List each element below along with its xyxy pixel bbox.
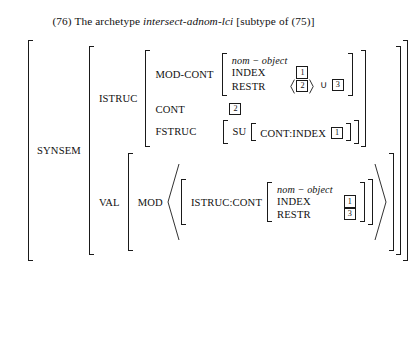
angle-close-icon: [309, 79, 314, 94]
attr-su: SU: [232, 126, 251, 137]
attr-mod-cont: MOD-CONT: [155, 69, 221, 80]
synsem-bracket: ISTRUC MOD-CONT: [89, 46, 401, 255]
attr-val: VAL: [99, 197, 128, 208]
caption-text-before: The archetype: [74, 15, 140, 27]
row-istruc: ISTRUC MOD-CONT: [99, 50, 366, 147]
row-cont: CONT 2: [155, 103, 241, 116]
val-index: 1: [274, 66, 343, 79]
attr-istruc: ISTRUC: [99, 93, 146, 104]
mod-item-bracket-body: ISTRUC:CONT nom − object: [186, 179, 368, 225]
tag-3: 3: [332, 79, 344, 92]
val-bracket-body: MOD: [133, 153, 389, 251]
row-index: INDEX 1: [232, 66, 344, 79]
attr-synsem: SYNSEM: [37, 145, 89, 156]
val-restr: 2: [274, 79, 343, 94]
istruc-bracket: MOD-CONT nom − object: [145, 50, 366, 147]
avm-diagram: SYNSEM ISTRUC: [28, 40, 408, 265]
attr-mod: MOD: [138, 197, 167, 208]
mod-item-bracket-right: [368, 179, 373, 225]
fstruc-bracket-right: [354, 120, 359, 145]
istruc-bracket-right: [361, 50, 366, 147]
row-restr: RESTR: [232, 79, 344, 94]
mod-cont-inner-bracket: nom − object INDEX: [267, 182, 365, 222]
caption-archetype-name: intersect-adnom-lci: [143, 15, 233, 27]
union-operator: ∪: [317, 79, 329, 90]
attr-cont-index: CONT:INDEX: [260, 128, 326, 139]
restr-list: 2: [290, 79, 314, 94]
row-mod-cont: MOD-CONT nom − object: [155, 53, 352, 96]
val-bracket: MOD: [128, 153, 394, 251]
row-val: VAL MOD: [99, 153, 394, 251]
mod-cont-bracket-right: [348, 53, 353, 96]
val-restr-val: 3: [320, 208, 356, 221]
tag-3-val: 3: [344, 208, 356, 221]
attr-restr-val: RESTR: [277, 208, 320, 221]
mod-list-angle-open-icon: [167, 163, 180, 241]
type-label-val-mod: nom − object: [277, 184, 356, 195]
attr-fstruc: FSTRUC: [155, 126, 223, 137]
fstruc-bracket: SU CONT:INDEX: [223, 120, 359, 145]
val-mod-rows: INDEX 1: [277, 195, 356, 220]
attr-index-val: INDEX: [277, 195, 320, 208]
val-bracket-right: [389, 153, 394, 251]
attr-cont: CONT: [155, 104, 223, 115]
row-index-val: INDEX 1: [277, 195, 356, 208]
su-bracket: CONT:INDEX 1: [251, 123, 351, 142]
mod-list-angle-close-icon: [374, 163, 387, 241]
outer-bracket-body: SYNSEM ISTRUC: [33, 40, 403, 261]
tag-1-val: 1: [344, 195, 356, 208]
mod-cont-inner-bracket-right: [360, 182, 365, 222]
mod-cont-bracket-body: nom − object INDEX 1: [227, 53, 348, 96]
attr-restr: RESTR: [232, 79, 275, 94]
row-restr-val: RESTR 3: [277, 208, 356, 221]
istruc-bracket-body: MOD-CONT nom − object: [150, 50, 361, 147]
row-fstruc: FSTRUC SU: [155, 120, 359, 145]
su-bracket-body: CONT:INDEX 1: [256, 123, 346, 142]
val-index-val: 1: [320, 195, 356, 208]
mod-cont-rows: INDEX 1: [232, 66, 344, 94]
angle-open-icon: [290, 79, 295, 94]
attr-index: INDEX: [232, 66, 275, 79]
tag-1: 1: [296, 66, 308, 79]
figure-caption: (76) The archetype intersect-adnom-lci […: [0, 14, 367, 28]
spacer-1: [155, 96, 359, 99]
tag-2: 2: [296, 80, 308, 93]
synsem-bracket-right: [396, 46, 401, 255]
tag-2-cont: 2: [229, 103, 241, 116]
attr-istruc-cont: ISTRUC:CONT: [191, 197, 267, 208]
type-label-mod-cont: nom − object: [232, 55, 344, 66]
outer-bracket-right: [403, 40, 408, 261]
mod-cont-inner-bracket-body: nom − object INDEX: [272, 182, 360, 222]
su-bracket-right: [346, 123, 351, 142]
mod-item-bracket: ISTRUC:CONT nom − object: [181, 179, 373, 225]
mod-cont-bracket: nom − object INDEX 1: [222, 53, 353, 96]
val-cont: 2: [223, 103, 241, 116]
fstruc-bracket-body: SU CONT:INDEX: [228, 120, 354, 145]
tag-1-su: 1: [331, 127, 343, 140]
outer-bracket: SYNSEM ISTRUC: [28, 40, 408, 261]
caption-text-after: [subtype of (75)]: [236, 15, 314, 27]
caption-number: (76): [52, 15, 71, 27]
synsem-bracket-body: ISTRUC MOD-CONT: [94, 46, 396, 255]
